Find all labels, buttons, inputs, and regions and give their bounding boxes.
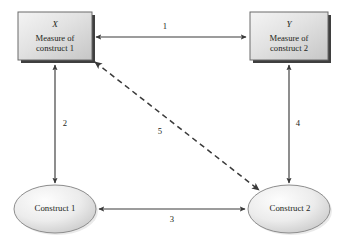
edge-5-label: 5 [153, 126, 167, 136]
edge-5-line[interactable] [95, 62, 259, 190]
edge-4-label: 4 [291, 118, 305, 128]
edge-2-label: 2 [58, 118, 72, 128]
edge-3-label: 3 [165, 214, 179, 224]
edge-1-label: 1 [158, 21, 172, 31]
diagram-canvas: X Measure of construct 1 Y Measure of co… [0, 0, 345, 245]
measure-x-box[interactable] [18, 12, 92, 60]
measure-y-box[interactable] [250, 12, 328, 60]
construct-2-ellipse[interactable] [248, 185, 330, 233]
construct-1-ellipse[interactable] [14, 185, 96, 233]
